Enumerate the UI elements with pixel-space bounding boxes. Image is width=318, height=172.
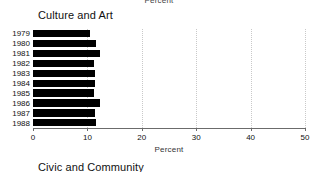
y-axis-tick-label: 1980 bbox=[12, 39, 30, 48]
x-axis-tick-label: 30 bbox=[192, 133, 201, 142]
x-axis-tick bbox=[251, 128, 252, 131]
x-axis-tick-label: 10 bbox=[83, 133, 92, 142]
x-axis-tick-label: 0 bbox=[31, 133, 35, 142]
bar-row bbox=[33, 79, 305, 89]
bar-row bbox=[33, 108, 305, 118]
bar bbox=[33, 40, 96, 47]
bar bbox=[33, 89, 94, 96]
bar-series bbox=[33, 29, 305, 128]
x-axis-tick bbox=[305, 128, 306, 131]
x-axis-tick-label: 50 bbox=[301, 133, 310, 142]
chart-figure: Percent Culture and Art 1979198019811982… bbox=[0, 0, 318, 172]
bar bbox=[33, 30, 90, 37]
y-axis-tick-label: 1985 bbox=[12, 89, 30, 98]
top-clipped-axis-label: Percent bbox=[0, 0, 318, 5]
x-axis-title: Percent bbox=[33, 145, 305, 154]
bar-row bbox=[33, 98, 305, 108]
y-axis-tick-label: 1982 bbox=[12, 59, 30, 68]
y-axis-tick-label: 1984 bbox=[12, 79, 30, 88]
x-axis-tick-label: 20 bbox=[137, 133, 146, 142]
bar bbox=[33, 80, 95, 87]
chart-title: Culture and Art bbox=[38, 9, 113, 21]
bar-row bbox=[33, 29, 305, 39]
bar bbox=[33, 60, 94, 67]
bar bbox=[33, 119, 96, 126]
bar-row bbox=[33, 39, 305, 49]
y-axis-tick-label: 1988 bbox=[12, 119, 30, 128]
bar-row bbox=[33, 59, 305, 69]
bar bbox=[33, 70, 95, 77]
y-axis-tick-label: 1983 bbox=[12, 69, 30, 78]
x-axis-tick-label: 40 bbox=[246, 133, 255, 142]
x-axis-tick bbox=[87, 128, 88, 131]
bar bbox=[33, 99, 100, 106]
y-axis-tick-label: 1979 bbox=[12, 29, 30, 38]
bar-row bbox=[33, 118, 305, 128]
x-axis-tick bbox=[196, 128, 197, 131]
y-axis-tick-labels: 1979198019811982198319841985198619871988 bbox=[0, 29, 30, 128]
bar-row bbox=[33, 88, 305, 98]
plot-area bbox=[33, 29, 305, 128]
x-axis-tick bbox=[142, 128, 143, 131]
gridline bbox=[305, 29, 306, 128]
bar-row bbox=[33, 49, 305, 59]
next-panel-title: Civic and Community bbox=[38, 161, 144, 172]
bar bbox=[33, 50, 100, 57]
bar-row bbox=[33, 69, 305, 79]
x-axis-line bbox=[33, 128, 305, 129]
bar bbox=[33, 109, 95, 116]
y-axis-tick-label: 1987 bbox=[12, 109, 30, 118]
y-axis-tick-label: 1986 bbox=[12, 99, 30, 108]
x-axis-tick bbox=[33, 128, 34, 131]
y-axis-tick-label: 1981 bbox=[12, 49, 30, 58]
